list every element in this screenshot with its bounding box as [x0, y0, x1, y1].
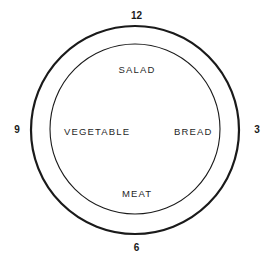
- clock-number-three: 3: [251, 125, 263, 135]
- food-label-salad: SALAD: [0, 65, 273, 75]
- food-label-meat: MEAT: [0, 189, 273, 199]
- plate-diagram: 12 3 6 9 SALAD BREAD MEAT VEGETABLE: [0, 0, 273, 266]
- plate-rim-graphic: [0, 0, 273, 266]
- food-label-bread: BREAD: [174, 127, 212, 137]
- food-label-vegetable: VEGETABLE: [64, 127, 130, 137]
- clock-number-nine: 9: [11, 125, 23, 135]
- clock-number-twelve: 12: [0, 11, 273, 21]
- clock-number-six: 6: [0, 243, 273, 253]
